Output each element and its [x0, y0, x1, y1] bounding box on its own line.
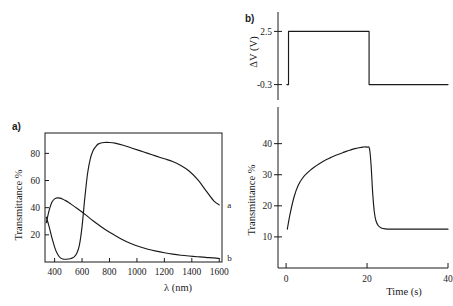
panel-a: a) Transmittance % λ (nm) 40060080010001… — [12, 121, 232, 294]
panel-b-transmittance-ylabel: Transmittance % — [246, 164, 257, 235]
panel-a-xtick: 1200 — [155, 267, 174, 277]
panel-b-voltage-chart: b) ΔV (V) 2.5-0.3 — [245, 12, 448, 100]
panel-a-xtick: 600 — [75, 267, 90, 277]
panel-a-xlabel: λ (nm) — [164, 282, 193, 294]
panel-a-xtick: 800 — [102, 267, 117, 277]
scientific-figure: a) Transmittance % λ (nm) 40060080010001… — [0, 0, 453, 306]
panel-a-xtick: 1600 — [210, 267, 229, 277]
panel-b-transmittance-plot-area: 0204010203040 — [263, 107, 453, 284]
panel-b-voltage-ytick: -0.3 — [257, 80, 272, 90]
figure-container: a) Transmittance % λ (nm) 40060080010001… — [0, 0, 453, 306]
panel-b-voltage-trace — [287, 31, 448, 84]
panel-b-transmittance-ytick: 20 — [263, 201, 273, 211]
panel-a-curve-b — [46, 198, 219, 259]
panel-a-ytick: 80 — [31, 149, 41, 159]
panel-a-label: a) — [12, 121, 21, 132]
panel-b-voltage-ytick: 2.5 — [260, 27, 272, 37]
panel-a-xtick: 1400 — [182, 267, 201, 277]
panel-b-voltage-ylabel: ΔV (V) — [248, 36, 260, 68]
panel-a-ytick: 20 — [31, 230, 41, 240]
panel-a-curve-label: b — [227, 253, 232, 263]
panel-b-voltage-plot-area: 2.5-0.3 — [257, 12, 448, 100]
panel-b-transmittance-xlabel: Time (s) — [386, 286, 422, 298]
panel-b-transmittance-trace — [287, 147, 448, 229]
panel-b-label: b) — [245, 13, 254, 24]
panel-a-ytick: 40 — [31, 203, 41, 213]
panel-b-transmittance-ytick: 30 — [263, 170, 273, 180]
panel-a-curve-label: a — [227, 200, 231, 210]
panel-b-transmittance-ytick: 10 — [263, 232, 273, 242]
panel-a-curve-a — [46, 142, 219, 259]
panel-a-xtick: 400 — [47, 267, 62, 277]
panel-a-xtick: 1000 — [127, 267, 146, 277]
panel-b-transmittance-chart: Transmittance % Time (s) 0204010203040 — [246, 107, 453, 298]
panel-a-ytick: 60 — [31, 176, 41, 186]
panel-a-plot-area: 400600800100012001400160020406080ab — [31, 133, 233, 277]
panel-b-transmittance-xtick: 0 — [284, 274, 289, 284]
panel-b-transmittance-ytick: 40 — [263, 139, 273, 149]
panel-b-transmittance-xtick: 40 — [443, 274, 453, 284]
panel-a-ylabel: Transmittance % — [13, 169, 24, 240]
panel-b-transmittance-xtick: 20 — [362, 274, 372, 284]
